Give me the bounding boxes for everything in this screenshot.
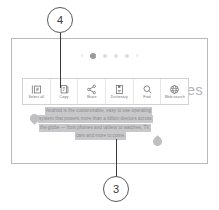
toolbar-item-share[interactable]: Share [78,79,106,104]
web-search-icon [169,84,180,95]
toolbar-item-label: Share [87,96,97,100]
page-dot-2[interactable] [103,54,107,58]
callout-leader-line-3 [116,139,118,177]
page-indicator: ‹ › [12,52,207,59]
share-icon [86,84,97,95]
toolbar-item-copy[interactable]: Copy [51,79,79,104]
callout-leader-line-4 [60,33,62,88]
selected-text-line: system that powers more than a billion d… [38,115,153,123]
pager-next-arrow-icon[interactable]: › [136,52,138,59]
page-dot-4[interactable] [125,54,129,58]
toolbar-item-dictionary[interactable]: Dictionary [106,79,134,104]
device-screen-frame: ‹ › tes Select all [11,38,208,164]
toolbar-item-label: Copy [60,96,69,100]
page-dot-3[interactable] [114,54,118,58]
toolbar-item-label: Web search [165,96,185,100]
pager-prev-arrow-icon[interactable]: ‹ [81,52,83,59]
toolbar-item-select-all[interactable]: Select all [23,79,51,104]
callout-number: 4 [57,14,63,26]
selected-text-line: Android is the customizable, easy to use… [45,107,152,115]
toolbar-item-label: Dictionary [111,96,128,100]
callout-number: 3 [113,183,119,195]
dictionary-icon [114,84,125,95]
selected-text-line: cars and more to come. [75,132,126,140]
toolbar-item-web-search[interactable]: Web search [161,79,188,104]
find-icon [142,84,153,95]
toolbar-item-label: Find [143,96,150,100]
selected-text-block[interactable]: Android is the customizable, easy to use… [36,107,186,141]
toolbar-item-find[interactable]: Find [134,79,162,104]
select-all-icon [31,84,42,95]
callout-badge-4: 4 [47,7,73,33]
toolbar-item-label: Select all [29,96,45,100]
selected-text-line: the globe — from phones and tablets to w… [39,124,151,132]
page-dot-1[interactable] [90,53,96,59]
figure-root: ‹ › tes Select all [0,0,219,210]
callout-badge-3: 3 [103,176,129,202]
text-selection-toolbar[interactable]: Select all Copy [22,78,189,105]
